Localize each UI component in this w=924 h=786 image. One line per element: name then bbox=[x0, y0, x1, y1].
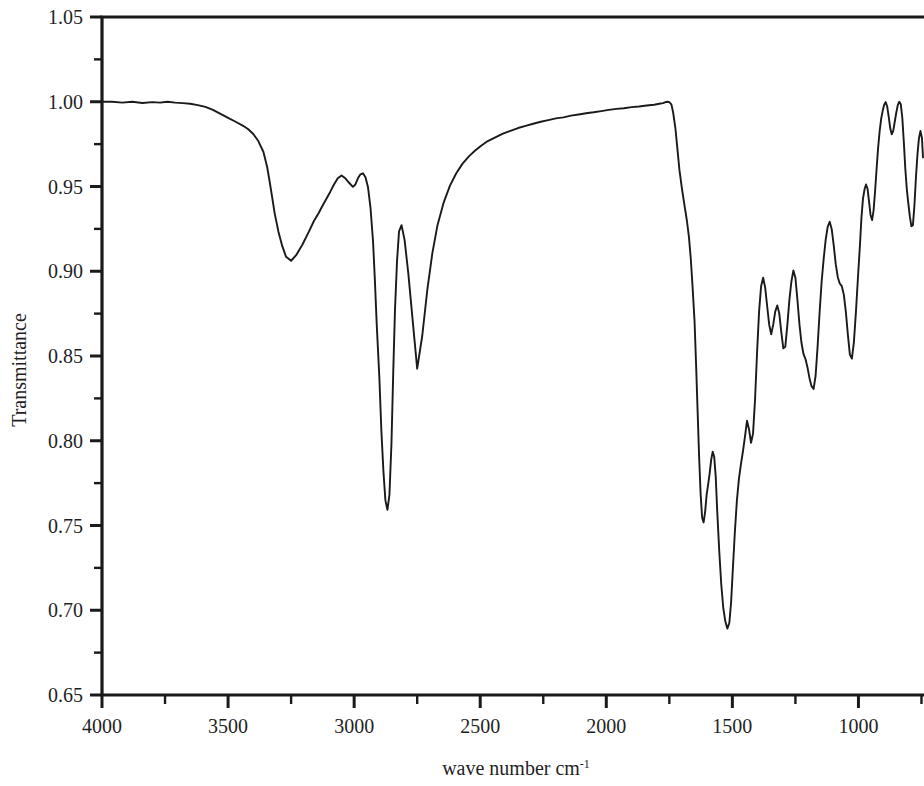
y-axis-title: Transmittance bbox=[8, 313, 30, 427]
ftir-spectrum-figure: 0.650.700.750.800.850.900.951.001.05 400… bbox=[0, 0, 924, 786]
x-tick-label: 1500 bbox=[712, 715, 752, 737]
spectrum-chart: 0.650.700.750.800.850.900.951.001.05 400… bbox=[0, 0, 924, 786]
y-axis-tick-labels: 0.650.700.750.800.850.900.951.001.05 bbox=[48, 6, 83, 706]
y-tick-label: 1.05 bbox=[48, 6, 83, 28]
y-tick-label: 0.85 bbox=[48, 345, 83, 367]
y-tick-label: 0.95 bbox=[48, 176, 83, 198]
y-tick-label: 0.70 bbox=[48, 599, 83, 621]
x-tick-label: 1000 bbox=[838, 715, 878, 737]
x-tick-label: 2500 bbox=[460, 715, 500, 737]
spectrum-trace bbox=[102, 102, 923, 629]
x-axis-title: wave number cm-1 bbox=[442, 757, 590, 779]
x-tick-label: 2000 bbox=[586, 715, 626, 737]
y-tick-label: 0.90 bbox=[48, 260, 83, 282]
x-axis-title-superscript: -1 bbox=[580, 757, 590, 771]
y-tick-label: 0.75 bbox=[48, 515, 83, 537]
x-tick-label: 3000 bbox=[334, 715, 374, 737]
y-tick-label: 0.80 bbox=[48, 430, 83, 452]
axis-tick-marks bbox=[90, 17, 921, 708]
x-tick-label: 4000 bbox=[82, 715, 122, 737]
x-axis-title-text: wave number cm bbox=[442, 757, 580, 779]
plot-axes bbox=[102, 17, 924, 695]
x-axis-tick-labels: 4000350030002500200015001000 bbox=[82, 715, 878, 737]
y-tick-label: 0.65 bbox=[48, 684, 83, 706]
y-tick-label: 1.00 bbox=[48, 91, 83, 113]
x-tick-label: 3500 bbox=[208, 715, 248, 737]
